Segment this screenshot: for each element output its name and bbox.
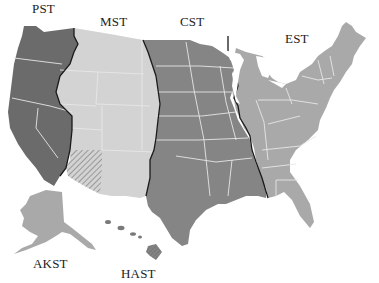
label-cst: CST <box>180 15 204 28</box>
zone-est-region <box>232 22 366 228</box>
label-pst: PST <box>32 2 55 15</box>
time-zone-map: PST MST CST EST AKST HAST <box>0 0 379 283</box>
label-hast: HAST <box>121 267 156 280</box>
zone-akst-region <box>14 190 96 254</box>
label-mst: MST <box>100 15 127 28</box>
us-map-graphic <box>0 0 379 283</box>
label-akst: AKST <box>33 257 68 270</box>
label-est: EST <box>285 32 309 45</box>
zone-hast-region <box>105 220 162 260</box>
arizona-hatched-region <box>66 150 102 194</box>
